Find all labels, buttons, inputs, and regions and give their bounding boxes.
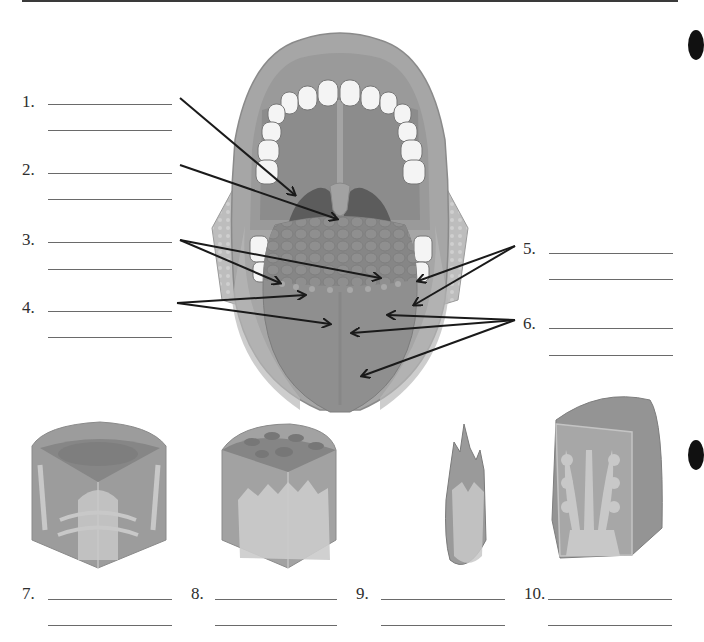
label-number-7: 7.	[22, 585, 35, 602]
label-number-8: 8.	[191, 585, 204, 602]
label-number-1: 1.	[22, 93, 35, 110]
label-number-5: 5.	[523, 240, 536, 257]
answer-line-3a[interactable]	[48, 242, 172, 243]
answer-line-9a[interactable]	[381, 599, 505, 600]
answer-line-8a[interactable]	[215, 599, 337, 600]
label-number-10: 10.	[524, 585, 545, 602]
answer-line-9b[interactable]	[381, 625, 505, 626]
answer-line-2a[interactable]	[48, 173, 172, 174]
answer-line-7a[interactable]	[48, 599, 172, 600]
papilla-illustration-9	[446, 424, 487, 565]
answer-line-1b[interactable]	[48, 130, 172, 131]
label-number-3: 3.	[22, 231, 35, 248]
answer-line-8b[interactable]	[215, 625, 337, 626]
label-number-9: 9.	[356, 585, 369, 602]
answer-line-3b[interactable]	[48, 269, 172, 270]
label-number-6: 6.	[523, 315, 536, 332]
answer-line-10a[interactable]	[548, 599, 672, 600]
answer-line-2b[interactable]	[48, 199, 172, 200]
answer-line-5a[interactable]	[549, 253, 673, 254]
answer-line-5b[interactable]	[549, 279, 673, 280]
answer-line-7b[interactable]	[48, 625, 172, 626]
answer-line-6a[interactable]	[549, 328, 673, 329]
answer-line-4a[interactable]	[48, 311, 172, 312]
papilla-illustration-7	[32, 422, 166, 568]
papilla-illustration-10	[552, 397, 662, 558]
papilla-illustration-8	[222, 424, 336, 568]
answer-line-6b[interactable]	[549, 355, 673, 356]
answer-line-4b[interactable]	[48, 337, 172, 338]
label-number-2: 2.	[22, 161, 35, 178]
answer-line-10b[interactable]	[548, 625, 672, 626]
label-number-4: 4.	[22, 299, 35, 316]
answer-line-1a[interactable]	[48, 104, 172, 105]
tongue-posterior-papillae	[264, 217, 417, 287]
